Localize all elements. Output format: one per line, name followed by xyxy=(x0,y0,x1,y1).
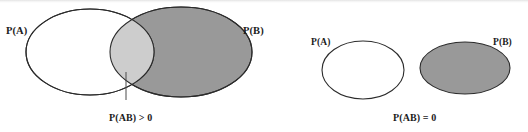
venn-canvas xyxy=(0,0,528,132)
venn-figure: P(A) P(B) P(AB) > 0 P(A) P(B) P(AB) = 0 xyxy=(0,0,528,132)
ellipse-a-disjoint xyxy=(322,41,404,99)
diagram-overlapping xyxy=(26,7,252,100)
label-p-b-disjoint: P(B) xyxy=(493,38,512,48)
label-p-b-overlapping: P(B) xyxy=(243,26,264,37)
ellipse-b-disjoint xyxy=(420,42,510,94)
label-p-a-disjoint: P(A) xyxy=(311,38,330,48)
caption-p-ab-disjoint: P(AB) = 0 xyxy=(393,113,436,123)
label-p-a-overlapping: P(A) xyxy=(6,26,27,37)
diagram-disjoint xyxy=(322,41,510,99)
caption-p-ab-overlapping: P(AB) > 0 xyxy=(109,113,152,123)
